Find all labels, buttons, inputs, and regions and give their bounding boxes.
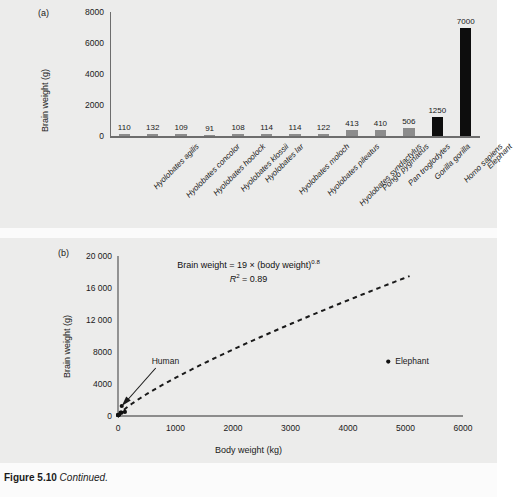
bar xyxy=(318,134,329,136)
panel-a-bars: 1101321099110811411412241341050612507000 xyxy=(0,0,497,228)
bar xyxy=(289,134,300,136)
elephant-annotation-label: Elephant xyxy=(395,356,429,366)
bar-value-label: 1250 xyxy=(417,106,457,115)
bar-value-label: 506 xyxy=(389,117,429,126)
figure-number: Figure 5.10 xyxy=(4,472,57,483)
regression-fit-curve xyxy=(118,276,410,416)
bar xyxy=(232,134,243,136)
bar xyxy=(175,134,186,136)
human-annotation-label: Human xyxy=(152,356,179,366)
bar xyxy=(460,28,471,137)
scatter-plot-canvas xyxy=(0,238,497,463)
bar xyxy=(204,135,215,137)
bar-value-label: 7000 xyxy=(446,17,486,26)
bar xyxy=(261,134,272,136)
panel-b-scatter-chart: (b) Brain weight (g) 04000800012 00016 0… xyxy=(0,238,497,463)
data-point xyxy=(118,411,122,415)
data-point xyxy=(386,360,390,364)
bar xyxy=(375,130,386,136)
bar xyxy=(147,134,158,136)
bar xyxy=(403,128,414,136)
bar xyxy=(346,130,357,136)
figure-caption: Figure 5.10 Continued. xyxy=(4,472,108,483)
data-point xyxy=(123,410,127,414)
bar xyxy=(119,134,130,136)
panel-a-bar-chart: (a) Brain weight (g) 02000400060008000 1… xyxy=(0,0,497,228)
bar xyxy=(432,117,443,136)
figure-caption-text: Continued. xyxy=(60,472,108,483)
